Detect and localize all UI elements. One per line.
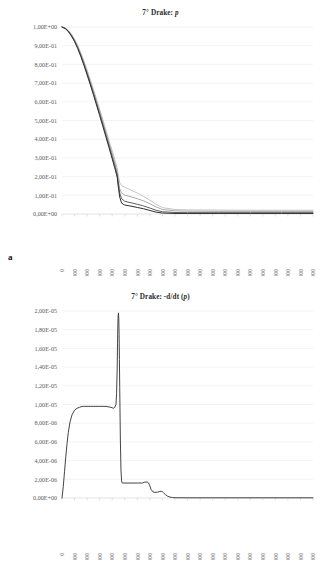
chart-a-xtick-label: 260.000	[222, 269, 228, 276]
chart-a-xtick-label: 100.000	[122, 269, 128, 276]
chart-a-title: 7° Drake: p	[0, 0, 321, 17]
chart-a-xtick-label: 0	[59, 269, 65, 272]
chart-b-ytick-label: 1,60E-05	[34, 346, 57, 352]
chart-a-series-curve-4	[62, 27, 313, 213]
chart-b-xtick-label: 220.000	[197, 553, 203, 560]
chart-a-xtick-label: 220.000	[197, 269, 203, 276]
chart-a-ytick-label: 3,00E-01	[34, 155, 57, 161]
chart-b-xtick-label: 300.000	[247, 553, 253, 560]
chart-a-xtick-label: 400.000	[310, 269, 316, 276]
chart-b-xtick-label: 80.000	[109, 553, 115, 560]
chart-b-ytick-label: 1,80E-05	[34, 327, 57, 333]
chart-a-ytick-label: 0,00E+00	[33, 211, 57, 217]
panel-letter-a: a	[8, 252, 13, 262]
chart-a-ytick-label: 7,00E-01	[34, 80, 57, 86]
chart-a-plot-area: 0,00E+001,00E-012,00E-013,00E-014,00E-01…	[0, 21, 321, 276]
chart-b-xtick-label: 180.000	[172, 553, 178, 560]
chart-b-ytick-label: 8,00E-06	[34, 420, 57, 426]
chart-a-xtick-label: 20.000	[72, 269, 78, 276]
chart-b-plot-area: 0,00E+002,00E-064,00E-066,00E-068,00E-06…	[0, 305, 321, 560]
chart-a-ytick-label: 5,00E-01	[34, 118, 57, 124]
chart-b-xtick-label: 280.000	[235, 553, 241, 560]
chart-a-xtick-label: 280.000	[235, 269, 241, 276]
chart-a-ytick-label: 6,00E-01	[34, 99, 57, 105]
chart-b-xtick-label: 20.000	[72, 553, 78, 560]
chart-b-ytick-label: 1,20E-05	[34, 383, 57, 389]
chart-panel-b: 7° Drake: -d/dt (p) 0,00E+002,00E-064,00…	[0, 284, 321, 569]
chart-b-ytick-label: 1,40E-05	[34, 364, 57, 370]
chart-a-xtick-label: 340.000	[273, 269, 279, 276]
chart-a-xtick-label: 200.000	[185, 269, 191, 276]
chart-b-ytick-label: 1,00E-05	[34, 402, 57, 408]
chart-a-xtick-label: 60.000	[97, 269, 103, 276]
chart-b-xtick-label: 260.000	[222, 553, 228, 560]
chart-b-xtick-label: 340.000	[273, 553, 279, 560]
chart-b-xtick-label: 140.000	[147, 553, 153, 560]
chart-a-xtick-label: 180.000	[172, 269, 178, 276]
chart-b-title: 7° Drake: -d/dt (p)	[0, 284, 321, 301]
chart-b-title-prefix: 7° Drake: -d/dt (	[131, 293, 183, 301]
chart-b-ytick-label: 6,00E-06	[34, 439, 57, 445]
chart-a-title-prefix: 7° Drake:	[142, 9, 175, 17]
chart-b-xtick-label: 320.000	[260, 553, 266, 560]
chart-a-xtick-label: 120.000	[135, 269, 141, 276]
chart-panel-a: 7° Drake: p 0,00E+001,00E-012,00E-013,00…	[0, 0, 321, 284]
chart-a-xtick-label: 300.000	[247, 269, 253, 276]
chart-b-xtick-label: 240.000	[210, 553, 216, 560]
chart-a-svg: 0,00E+001,00E-012,00E-013,00E-014,00E-01…	[0, 21, 321, 276]
chart-b-xtick-label: 40.000	[84, 553, 90, 560]
chart-a-ytick-label: 1,00E+00	[33, 24, 57, 30]
chart-b-xtick-label: 360.000	[285, 553, 291, 560]
chart-a-ytick-label: 9,00E-01	[34, 43, 57, 49]
chart-b-ytick-label: 0,00E+00	[33, 495, 57, 501]
chart-b-xtick-label: 0	[59, 553, 65, 556]
chart-a-xtick-label: 380.000	[298, 269, 304, 276]
chart-a-ytick-label: 4,00E-01	[34, 136, 57, 142]
chart-b-xtick-label: 200.000	[185, 553, 191, 560]
chart-b-xtick-label: 380.000	[298, 553, 304, 560]
chart-a-ytick-label: 1,00E-01	[34, 193, 57, 199]
chart-b-xtick-label: 400.000	[310, 553, 316, 560]
chart-b-ytick-label: 2,00E-05	[34, 308, 57, 314]
chart-b-xtick-label: 60.000	[97, 553, 103, 560]
chart-a-xtick-label: 240.000	[210, 269, 216, 276]
chart-b-svg: 0,00E+002,00E-064,00E-066,00E-068,00E-06…	[0, 305, 321, 560]
chart-b-series-derivative-curve	[62, 313, 313, 498]
chart-a-series-curve-1	[62, 27, 313, 210]
chart-a-xtick-label: 320.000	[260, 269, 266, 276]
chart-a-xtick-label: 160.000	[160, 269, 166, 276]
chart-a-xtick-label: 80.000	[109, 269, 115, 276]
chart-a-ytick-label: 8,00E-01	[34, 62, 57, 68]
chart-a-title-italic: p	[175, 9, 179, 17]
chart-a-xtick-label: 140.000	[147, 269, 153, 276]
chart-b-xtick-label: 160.000	[160, 553, 166, 560]
chart-b-ytick-label: 2,00E-06	[34, 477, 57, 483]
chart-b-ytick-label: 4,00E-06	[34, 458, 57, 464]
chart-a-series-curve-3	[62, 27, 313, 213]
chart-b-title-suffix: )	[187, 293, 190, 301]
chart-a-xtick-label: 40.000	[84, 269, 90, 276]
chart-a-ytick-label: 2,00E-01	[34, 174, 57, 180]
chart-b-xtick-label: 100.000	[122, 553, 128, 560]
chart-a-series-curve-2	[62, 27, 313, 211]
chart-a-xtick-label: 360.000	[285, 269, 291, 276]
chart-b-xtick-label: 120.000	[135, 553, 141, 560]
